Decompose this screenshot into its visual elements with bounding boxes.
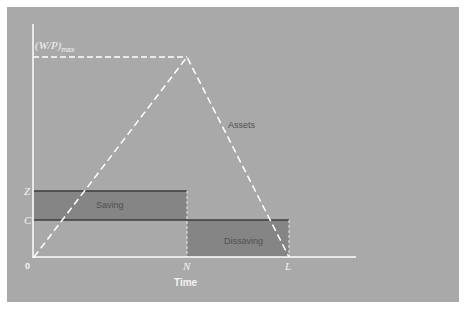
assets-label: Assets [228,120,255,130]
origin-label: 0 [25,261,30,271]
max-wealth-subscript: max [61,46,74,53]
max-wealth-label-text: (W/P) [35,39,61,51]
x-axis-label: Time [174,278,197,288]
x-tick-n: N [183,261,190,271]
saving-label: Saving [96,200,124,210]
y-tick-z: Z [24,186,30,196]
x-tick-l: L [285,261,291,271]
max-wealth-label: (W/P)max [35,40,75,52]
dissaving-label: Dissaving [224,236,263,246]
y-tick-c: C [24,215,31,225]
